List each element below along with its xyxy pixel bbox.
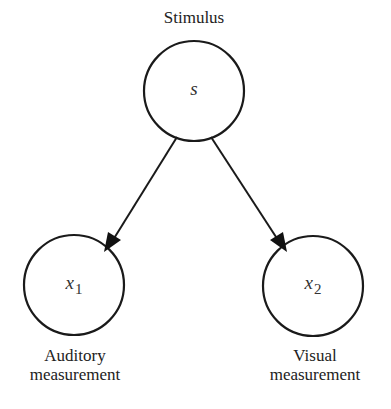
- node-s-symbol: s: [174, 78, 214, 100]
- node-x2-subscript: 2: [314, 281, 322, 297]
- node-x1-subscript: 1: [75, 281, 83, 297]
- arrowhead-x1-icon: [104, 232, 121, 252]
- node-s-symbol-text: s: [190, 78, 197, 99]
- node-s-label: Stimulus: [144, 8, 244, 27]
- node-x1-label-line-2: measurement: [14, 365, 136, 384]
- edge-s-to-x1: [113, 137, 177, 240]
- node-x2-label-line-2: measurement: [254, 365, 376, 384]
- edge-s-to-x2: [211, 137, 278, 240]
- diagram-canvas: Stimulus s x1 x2 Auditory measurement Vi…: [0, 0, 391, 409]
- node-x1-label: Auditory measurement: [14, 346, 136, 384]
- node-x1-symbol-text: x: [66, 272, 74, 293]
- node-x2-label: Visual measurement: [254, 346, 376, 384]
- node-s-label-line-1: Stimulus: [164, 8, 224, 27]
- node-x1-label-line-1: Auditory: [14, 346, 136, 365]
- node-x2-symbol: x2: [291, 272, 335, 298]
- node-x2-label-line-1: Visual: [254, 346, 376, 365]
- node-x2-symbol-text: x: [305, 272, 313, 293]
- node-x1-symbol: x1: [52, 272, 96, 298]
